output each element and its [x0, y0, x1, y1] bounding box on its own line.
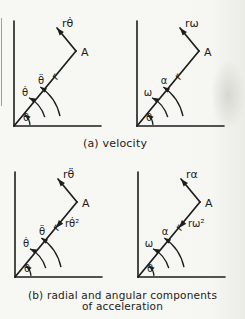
diagram-acceleration-general: rθ̈Arθ̇θ̈θrθ̇²: [5, 166, 113, 284]
caption-acceleration: (b) radial and angular components of acc…: [0, 290, 245, 312]
page-edge-artifact: [1, 18, 2, 106]
rotation-arc-inner: [29, 98, 45, 117]
diagram-velocity-omega: rωArωαθ: [127, 15, 235, 133]
angular-outer-label: θ̈: [38, 74, 44, 86]
point-label: A: [81, 46, 89, 59]
point-label: A: [205, 197, 213, 210]
rotation-arc-inner: [152, 98, 168, 117]
angle-label: θ: [146, 112, 152, 123]
angular-inner-label: ω: [145, 238, 153, 249]
diagram-velocity-general: rθ̇Arθ̇θ̈θ: [4, 15, 112, 133]
angular-outer-label: θ̈: [39, 225, 45, 237]
figure-page: rθ̇Arθ̇θ̈θ rωArωαθ (a) velocity rθ̈Arθ̇θ…: [0, 0, 245, 319]
point-label: A: [82, 197, 90, 210]
tangential-vector-label: rθ̇: [62, 16, 74, 30]
angle-label: θ: [23, 112, 29, 123]
rotation-arc-inner: [30, 249, 46, 268]
angular-inner-label: θ̇: [22, 85, 28, 98]
rotation-arc-inner: [153, 249, 169, 268]
caption-acceleration-line2: of acceleration: [0, 301, 245, 312]
angular-inner-label: ω: [144, 87, 152, 98]
tangential-vector-label: rα: [186, 168, 198, 181]
angular-inner-label: θ̇: [23, 236, 29, 249]
tangential-vector-label: rω: [185, 17, 199, 30]
angular-outer-label: α: [161, 75, 168, 86]
point-label: A: [204, 46, 212, 59]
caption-velocity: (a) velocity: [20, 137, 210, 150]
diagram-acceleration-omega: rαArωαθrω²: [128, 166, 236, 284]
radial-component-label: rθ̇²: [65, 216, 79, 229]
tangential-vector-label: rθ̈: [63, 168, 75, 181]
angle-label: θ: [147, 263, 153, 274]
angular-outer-label: α: [162, 226, 169, 237]
radial-component-label: rω²: [188, 218, 205, 229]
angle-label: θ: [24, 263, 30, 274]
